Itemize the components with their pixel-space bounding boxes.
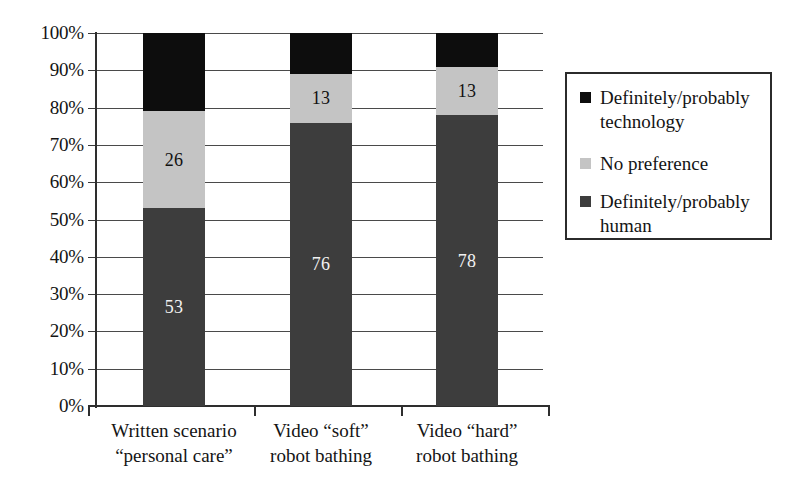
stacked-bar[interactable]: 2653	[143, 33, 205, 406]
bar-segment-value-label: 13	[312, 89, 331, 107]
y-axis-tick-label: 100%	[22, 23, 84, 42]
legend-item-label: Definitely/probablytechnology	[600, 86, 765, 134]
legend-swatch-icon	[580, 92, 591, 103]
x-axis-category-label-line: Video “hard”	[367, 418, 567, 443]
bar-segment-human[interactable]: 76	[290, 123, 352, 406]
x-axis-divider-end	[548, 405, 550, 416]
stacked-bar[interactable]: 1376	[290, 33, 352, 406]
x-axis-category-label: Video “hard”robot bathing	[367, 418, 567, 468]
legend-item-label-line: Definitely/probably	[600, 86, 765, 110]
x-axis-divider-start	[88, 405, 90, 416]
bar-segment-value-label: 26	[165, 151, 184, 169]
x-axis-divider-1	[254, 405, 256, 416]
x-axis-category-label-line: robot bathing	[367, 443, 567, 468]
y-axis-tick-label: 20%	[22, 321, 84, 340]
y-axis-tick-label: 10%	[22, 359, 84, 378]
bar-segment-human[interactable]: 53	[143, 208, 205, 406]
bar-segment-value-label: 78	[458, 252, 477, 270]
stacked-bar[interactable]: 1378	[436, 33, 498, 406]
bar-segment-nopref[interactable]: 26	[143, 111, 205, 208]
legend-item-label: No preference	[600, 152, 765, 176]
y-axis-tick-label: 70%	[22, 135, 84, 154]
legend-item-label: Definitely/probablyhuman	[600, 190, 765, 238]
bar-segment-nopref[interactable]: 13	[436, 67, 498, 115]
x-axis-divider-2	[401, 405, 403, 416]
legend-item[interactable]: Definitely/probablytechnology	[580, 86, 765, 134]
bar-segment-value-label: 76	[312, 255, 331, 273]
y-axis-tick-label: 0%	[22, 396, 84, 415]
bar-segment-value-label: 53	[165, 298, 184, 316]
legend-item-label-line: Definitely/probably	[600, 190, 765, 214]
y-axis-tick-label: 80%	[22, 98, 84, 117]
bar-segment-technology[interactable]	[143, 33, 205, 111]
legend-item[interactable]: No preference	[580, 152, 765, 176]
y-axis-tick-label: 90%	[22, 60, 84, 79]
y-axis-tick-label: 40%	[22, 247, 84, 266]
bar-segment-human[interactable]: 78	[436, 115, 498, 406]
legend-item[interactable]: Definitely/probablyhuman	[580, 190, 765, 238]
legend-swatch-icon	[580, 158, 591, 169]
legend-item-label-line: human	[600, 214, 765, 238]
bar-segment-technology[interactable]	[436, 33, 498, 67]
chart-legend: Definitely/probablytechnologyNo preferen…	[565, 72, 772, 240]
bar-segment-value-label: 13	[458, 82, 477, 100]
y-axis-tick-label: 30%	[22, 284, 84, 303]
legend-item-label-line: technology	[600, 110, 765, 134]
bar-segment-technology[interactable]	[290, 33, 352, 74]
legend-item-label-line: No preference	[600, 152, 765, 176]
y-axis-tick-label: 50%	[22, 210, 84, 229]
plot-area: 265313761378	[96, 33, 543, 406]
bar-segment-nopref[interactable]: 13	[290, 74, 352, 122]
y-axis-tick-label: 60%	[22, 172, 84, 191]
legend-swatch-icon	[580, 196, 591, 207]
stacked-bar-chart-figure: 100%90%80%70%60%50%40%30%20%10%0% 265313…	[0, 0, 808, 484]
